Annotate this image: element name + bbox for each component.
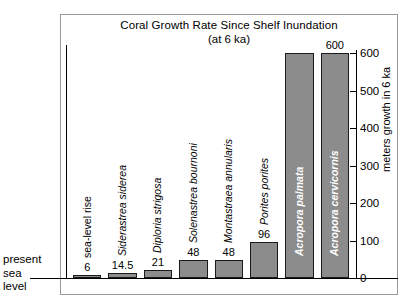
bar-category-label: Acropora palmata [293,167,305,256]
y-axis-tick-label: 300 [360,160,379,172]
present-sea-level-label: present sea level [3,253,41,294]
bar-group: 96Porites porites [250,45,278,278]
bar-group: 48Solenastrea bournoni [179,45,207,278]
bar-group: 6sea-level rise [73,45,101,278]
y-axis-tick [350,241,356,242]
bar-category-label-wrap: Solenastrea bournoni [179,45,207,278]
y-axis-tick-label: 500 [360,85,379,97]
bar-group: 600Acropora cervicornis [321,45,349,278]
bar-category-label-wrap: Acropora palmata [285,45,313,278]
chart-title: Coral Growth Rate Since Shelf Inundation [60,18,398,32]
bar-category-label-wrap: Acropora cervicornis [321,45,349,278]
chart-subtitle: (at 6 ka) [60,32,398,46]
y-axis-tick-label: 0 [360,272,366,284]
bar-category-label-wrap: Montastraea annularis [215,45,243,278]
chart-figure: Coral Growth Rate Since Shelf Inundation… [0,0,420,308]
y-axis-title: meters growth in 6 ka [380,67,392,172]
y-axis-tick-label: 100 [360,235,379,247]
bar-group: 21Diploria strigosa [144,45,172,278]
y-axis-line [356,50,357,278]
bar-category-label-wrap: Siderastrea siderea [108,45,136,278]
bar-category-label: Acropora cervicornis [328,150,340,256]
bar-category-label: Siderastrea siderea [116,165,128,256]
bar-group: 48Montastraea annularis [215,45,243,278]
bar-category-label: sea-level rise [81,196,93,258]
y-axis-tick [350,128,356,129]
y-axis-tick-label: 200 [360,197,379,209]
y-axis-tick-label: 400 [360,122,379,134]
bar-group: 14.5Siderastrea siderea [108,45,136,278]
y-axis-tick [350,91,356,92]
bar-group: Acropora palmata [285,45,313,278]
y-axis-tick [350,53,356,54]
y-axis-tick-label: 600 [360,47,379,59]
bar-category-label-wrap: Porites porites [250,45,278,278]
bar-category-label: Porites porites [258,158,270,225]
bar-category-label: Solenastrea bournoni [187,143,199,243]
bar-category-label-wrap: sea-level rise [73,45,101,278]
bar-category-label: Diploria strigosa [151,178,163,253]
bar-series: 6sea-level rise14.5Siderastrea siderea21… [66,45,356,278]
y-axis-tick [350,203,356,204]
bar-category-label: Montastraea annularis [222,139,234,243]
bar-category-label-wrap: Diploria strigosa [144,45,172,278]
y-axis-tick [350,166,356,167]
present-sea-level-line [30,278,398,279]
